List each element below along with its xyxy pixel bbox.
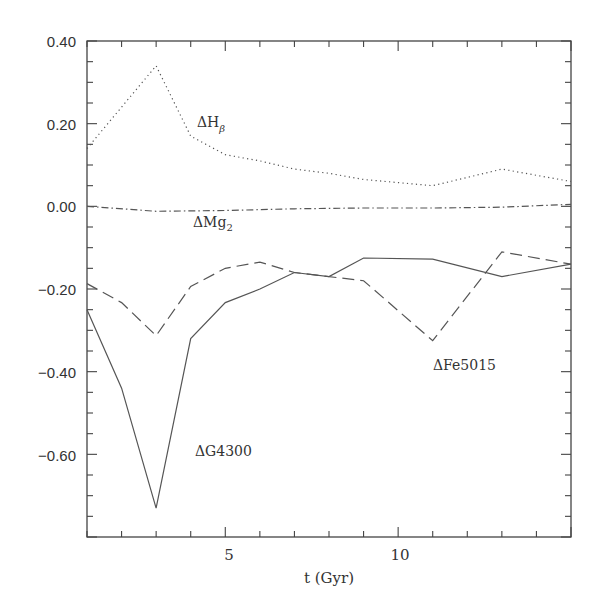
y-tick-label: −0.20 bbox=[38, 281, 76, 298]
series-fe5015-line bbox=[87, 252, 571, 341]
annotation-hbeta: ΔHβ bbox=[197, 114, 225, 134]
annotation-mg2-main: ΔMg bbox=[193, 214, 226, 230]
chart-canvas: 0.40 0.20 0.00 −0.20 −0.40 −0.60 5 10 t … bbox=[0, 0, 597, 610]
series-hbeta-line bbox=[87, 66, 571, 186]
y-tick-label: −0.60 bbox=[38, 447, 76, 464]
axis-ticks bbox=[87, 41, 571, 537]
annotation-mg2-sub: 2 bbox=[226, 222, 232, 233]
series-mg2-line bbox=[87, 204, 571, 211]
annotation-hbeta-main: ΔH bbox=[197, 114, 219, 130]
x-tick-label: 10 bbox=[390, 546, 409, 564]
y-tick-label: 0.20 bbox=[47, 116, 76, 133]
y-tick-label: 0.40 bbox=[47, 33, 76, 50]
annotation-mg2: ΔMg2 bbox=[193, 214, 233, 233]
plot-frame bbox=[87, 41, 571, 537]
y-tick-label: 0.00 bbox=[47, 198, 76, 215]
series-g4300-line bbox=[87, 258, 571, 508]
annotation-hbeta-sub: β bbox=[218, 123, 225, 134]
x-axis-labels: 5 10 bbox=[224, 546, 409, 564]
annotations: ΔHβ ΔMg2 ΔFe5015 ΔG4300 bbox=[193, 114, 496, 459]
annotation-g4300: ΔG4300 bbox=[195, 443, 252, 459]
x-axis-title: t (Gyr) bbox=[304, 569, 354, 587]
annotation-fe5015: ΔFe5015 bbox=[433, 357, 496, 373]
x-tick-label: 5 bbox=[224, 546, 234, 564]
y-tick-label: −0.40 bbox=[38, 364, 76, 381]
y-axis-labels: 0.40 0.20 0.00 −0.20 −0.40 −0.60 bbox=[38, 33, 76, 464]
series-group bbox=[87, 66, 571, 508]
